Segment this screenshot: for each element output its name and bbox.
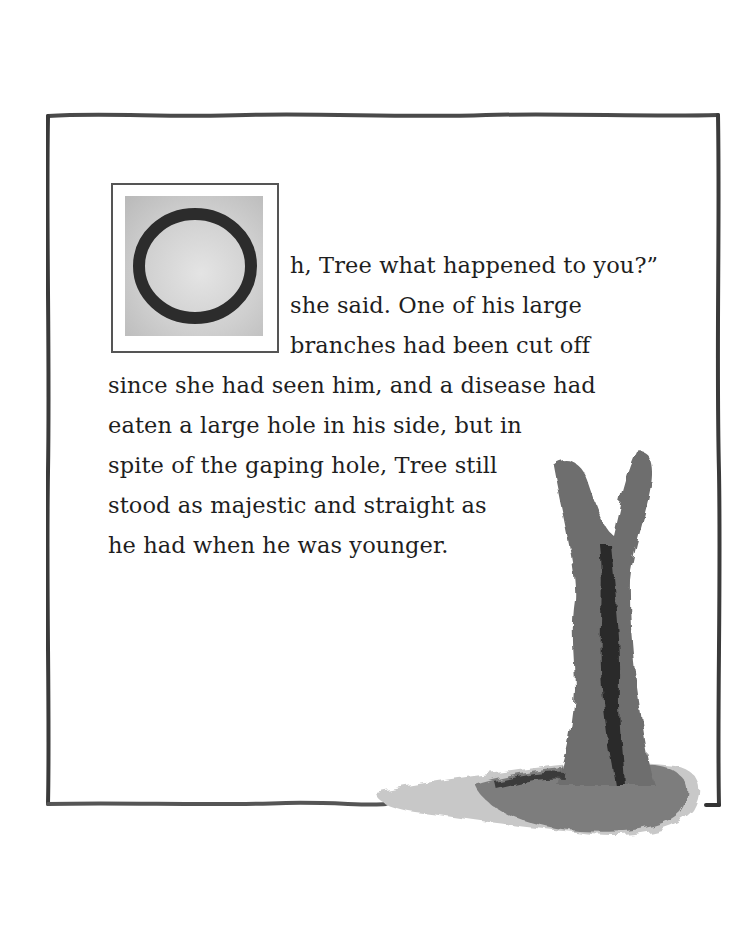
- tree-illustration: [375, 440, 715, 844]
- text-line: eaten a large hole in his side, but in: [108, 412, 522, 438]
- text-line: branches had been cut off: [290, 332, 590, 358]
- tree-trunk-icon: [375, 440, 715, 840]
- drop-cap-letter-o-icon: [125, 196, 263, 336]
- text-line: h, Tree what happened to you?”: [290, 252, 658, 278]
- drop-cap-illustration: [111, 183, 279, 353]
- text-line: she said. One of his large: [290, 292, 582, 318]
- text-line: since she had seen him, and a disease ha…: [108, 372, 596, 398]
